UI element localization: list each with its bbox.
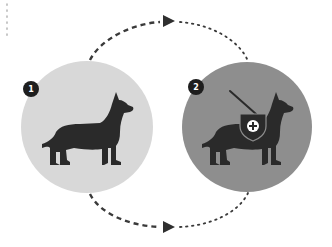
step-1-number: 1 — [28, 85, 34, 94]
arrow-right-icon — [163, 221, 175, 233]
bottom-connector — [90, 193, 248, 233]
top-connector — [90, 15, 248, 61]
step-2-number: 2 — [193, 83, 199, 92]
cycle-diagram: 1 2 — [0, 0, 332, 247]
step-1: 1 — [21, 61, 153, 193]
step-2: 2 — [182, 62, 312, 192]
arrow-right-icon — [163, 15, 175, 27]
